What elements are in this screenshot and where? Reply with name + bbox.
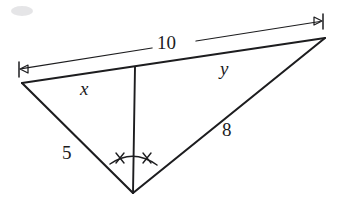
label-total-length-10: 10 — [157, 33, 176, 52]
label-segment-x: x — [80, 79, 88, 98]
label-side-5: 5 — [62, 143, 72, 162]
triangle-left-side — [22, 83, 133, 193]
label-side-8: 8 — [222, 120, 232, 139]
angle-bisector-cevian — [133, 67, 135, 193]
dimension-line-left-segment — [22, 48, 152, 69]
scan-smudge-artifact — [11, 6, 33, 16]
dimension-arrowhead-right — [314, 17, 322, 25]
geometry-figure: 10 x y 5 8 — [0, 0, 343, 217]
dimension-line-right-segment — [196, 22, 320, 42]
label-segment-y: y — [220, 59, 228, 78]
dimension-arrowhead-left — [20, 65, 28, 73]
